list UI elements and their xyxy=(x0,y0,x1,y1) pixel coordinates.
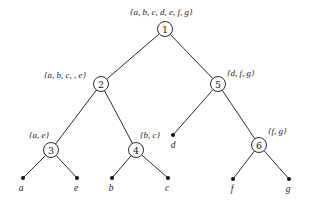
node-number: 6 xyxy=(256,140,262,151)
edge-2-3 xyxy=(56,90,97,144)
tree-edges xyxy=(23,34,289,179)
edge-4-c xyxy=(142,155,168,178)
edge-2-4 xyxy=(105,91,133,144)
leaf-dot-icon xyxy=(21,176,25,180)
leaf-label: f xyxy=(231,184,235,194)
leaf-label: b xyxy=(109,183,114,193)
set-label-node-4: {b, c} xyxy=(140,130,161,140)
node-number: 1 xyxy=(162,24,168,35)
leaf-label: d xyxy=(171,140,176,150)
node-number: 2 xyxy=(98,79,104,90)
edge-3-e xyxy=(56,155,77,178)
edge-1-2 xyxy=(107,34,160,79)
leaf-label: a xyxy=(19,183,24,193)
node-6: 6 xyxy=(252,138,267,153)
leaf-f: f xyxy=(231,177,235,194)
set-label-node-5: {d, f, g} xyxy=(227,68,255,78)
tree-diagram: aebcdfg 125346 {a, b, c, d, e, f, g}{a, … xyxy=(0,0,311,201)
leaf-dot-icon xyxy=(166,176,170,180)
node-5: 5 xyxy=(211,77,226,92)
leaf-e: e xyxy=(74,176,79,193)
leaf-c: c xyxy=(165,176,170,193)
node-number: 4 xyxy=(133,145,139,156)
leaf-dot-icon xyxy=(231,177,235,181)
node-number: 3 xyxy=(48,145,54,156)
leaf-dot-icon xyxy=(110,176,114,180)
edge-1-5 xyxy=(170,34,213,78)
edge-4-b xyxy=(112,156,131,178)
edge-3-a xyxy=(23,155,46,178)
edge-6-g xyxy=(264,151,289,179)
set-label-node-1: {a, b, c, d, e, f, g} xyxy=(130,7,193,17)
leaf-dot-icon xyxy=(75,176,79,180)
node-4: 4 xyxy=(129,143,144,158)
leaf-d: d xyxy=(171,133,176,150)
set-label-node-3: {a, e} xyxy=(29,130,50,140)
set-label-node-6: {f, g} xyxy=(268,126,287,136)
leaf-a: a xyxy=(19,176,25,193)
leaf-b: b xyxy=(109,176,114,193)
leaf-dot-icon xyxy=(287,177,291,181)
node-number: 5 xyxy=(215,79,221,90)
set-label-node-2: {a, b, c, , e} xyxy=(44,70,87,80)
edge-5-6 xyxy=(222,90,255,139)
leaf-g: g xyxy=(286,177,291,194)
edge-5-d xyxy=(173,90,213,135)
node-2: 2 xyxy=(94,77,109,92)
leaf-label: c xyxy=(165,183,170,193)
node-1: 1 xyxy=(158,22,173,37)
leaf-label: g xyxy=(286,184,291,194)
node-3: 3 xyxy=(44,143,59,158)
leaf-dot-icon xyxy=(171,133,175,137)
leaf-label: e xyxy=(74,183,78,193)
tree-leaves: aebcdfg xyxy=(19,133,291,194)
edge-6-f xyxy=(233,151,254,179)
